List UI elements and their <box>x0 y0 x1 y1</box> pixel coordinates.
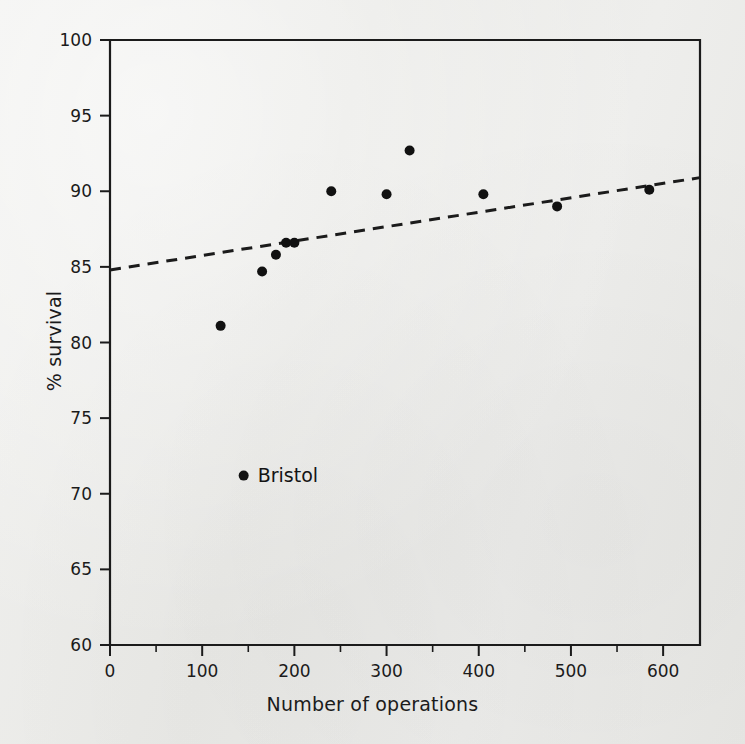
y-tick-label: 100 <box>46 30 92 50</box>
x-axis-title: Number of operations <box>0 693 745 715</box>
data-point <box>552 201 562 211</box>
x-tick-label: 600 <box>633 661 693 681</box>
data-point <box>478 189 488 199</box>
y-axis-title: % survival <box>43 281 65 401</box>
x-tick-label: 400 <box>449 661 509 681</box>
y-tick-label: 70 <box>46 484 92 504</box>
data-point <box>382 189 392 199</box>
data-point <box>271 250 281 260</box>
x-tick-label: 200 <box>264 661 324 681</box>
x-tick-label: 300 <box>357 661 417 681</box>
axes-group <box>110 40 700 645</box>
data-point <box>644 185 654 195</box>
trend-line <box>110 178 700 270</box>
x-tick-label: 100 <box>172 661 232 681</box>
scatter-chart-figure: 6065707580859095100 0100200300400500600 … <box>0 0 745 744</box>
data-point <box>405 145 415 155</box>
y-tick-label: 75 <box>46 408 92 428</box>
tick-marks-group <box>100 40 663 656</box>
plot-canvas <box>0 0 745 744</box>
y-tick-label: 85 <box>46 257 92 277</box>
x-tick-label: 500 <box>541 661 601 681</box>
trend-line-group <box>110 178 700 270</box>
y-tick-label: 90 <box>46 181 92 201</box>
data-point <box>216 321 226 331</box>
data-point <box>289 238 299 248</box>
data-point-label-bristol: Bristol <box>258 464 318 486</box>
y-tick-label: 65 <box>46 559 92 579</box>
axis-frame <box>110 40 700 645</box>
y-tick-label: 95 <box>46 106 92 126</box>
x-tick-label: 0 <box>80 661 140 681</box>
data-point <box>257 266 267 276</box>
data-point <box>326 186 336 196</box>
y-tick-label: 60 <box>46 635 92 655</box>
data-point <box>239 471 249 481</box>
